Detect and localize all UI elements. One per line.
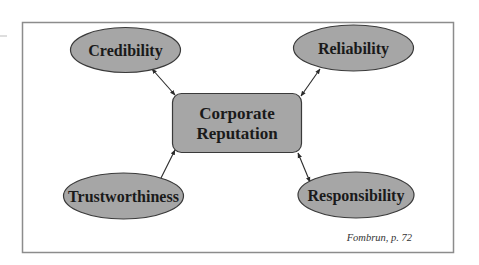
node-reliability: Reliability <box>294 25 414 71</box>
node-trustworthiness: Trustworthiness <box>64 173 184 219</box>
source-caption: Fombrun, p. 72 <box>346 232 413 243</box>
node-label-credibility: Credibility <box>88 42 162 60</box>
center-label-line2: Reputation <box>196 124 278 143</box>
node-label-trustworthiness: Trustworthiness <box>68 188 179 205</box>
node-label-responsibility: Responsibility <box>308 187 405 205</box>
center-label-line1: Corporate <box>199 104 275 123</box>
node-credibility: Credibility <box>71 28 181 73</box>
node-label-reliability: Reliability <box>318 40 389 58</box>
center-node-corporate-reputation: Corporate Reputation <box>173 94 302 153</box>
node-responsibility: Responsibility <box>298 172 414 218</box>
diagram-canvas: Corporate Reputation Credibility Reliabi… <box>0 0 479 265</box>
